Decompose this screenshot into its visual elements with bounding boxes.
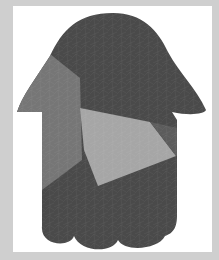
outer-frame [0,0,219,260]
hamsa-illustration [0,0,219,260]
hamsa-shape [0,0,219,260]
tessellation-texture [0,0,219,260]
